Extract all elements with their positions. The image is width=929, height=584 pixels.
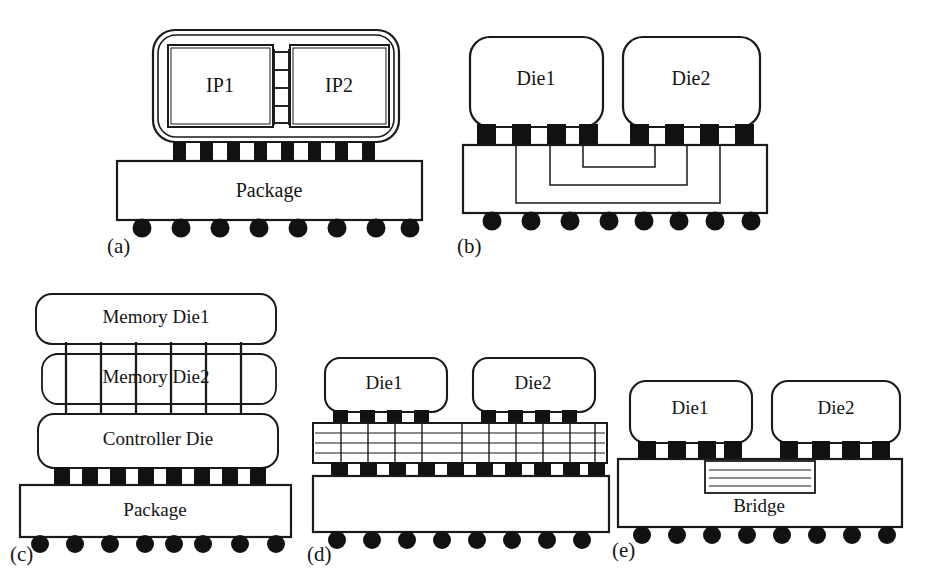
- memory-die-1-label: Memory Die1: [102, 306, 209, 327]
- panel-b-drawing: Die1 Die2: [455, 22, 775, 267]
- embedded-bridge-block: [705, 461, 815, 493]
- solder-ball-row: [328, 531, 591, 549]
- die2-label: Die2: [818, 397, 855, 418]
- package-label: Package: [236, 179, 303, 202]
- bridge-label: Bridge: [733, 495, 785, 516]
- panel-d-drawing: Die1 Die2: [305, 352, 615, 578]
- solder-ball-row: [633, 526, 896, 544]
- panel-c: Memory Die1 Memory Die2 Controller Die: [8, 288, 298, 578]
- solder-ball-row: [133, 219, 420, 238]
- figure-root: IP1 IP2: [0, 0, 929, 584]
- panel-e: Die1 Die2: [610, 375, 925, 580]
- panel-e-label: (e): [612, 538, 635, 563]
- panel-d-label: (d): [307, 542, 332, 567]
- microbump-row: [54, 467, 266, 486]
- panel-e-drawing: Die1 Die2: [610, 375, 925, 580]
- panel-c-label: (c): [10, 542, 33, 567]
- package-label: Package: [123, 499, 186, 520]
- panel-b: Die1 Die2: [455, 22, 775, 267]
- panel-a-label: (a): [107, 234, 130, 259]
- panel-b-label: (b): [457, 234, 482, 259]
- microbump-row: [173, 142, 375, 162]
- ip2-label: IP2: [325, 74, 353, 96]
- panel-d: Die1 Die2: [305, 352, 615, 578]
- memory-die-2-label: Memory Die2: [102, 366, 209, 387]
- panel-a: IP1 IP2: [105, 22, 435, 267]
- interposer-bump-row: [331, 462, 605, 477]
- panel-a-drawing: IP1 IP2: [105, 22, 435, 267]
- solder-ball-row: [483, 212, 761, 231]
- die1-label: Die1: [366, 372, 403, 393]
- package-substrate: [313, 476, 609, 532]
- ip1-label: IP1: [206, 74, 234, 96]
- die1-label: Die1: [517, 67, 556, 89]
- die2-label: Die2: [672, 67, 711, 89]
- die2-label: Die2: [515, 372, 552, 393]
- controller-die-label: Controller Die: [103, 428, 213, 449]
- die1-label: Die1: [672, 397, 709, 418]
- panel-c-drawing: Memory Die1 Memory Die2 Controller Die: [8, 288, 298, 578]
